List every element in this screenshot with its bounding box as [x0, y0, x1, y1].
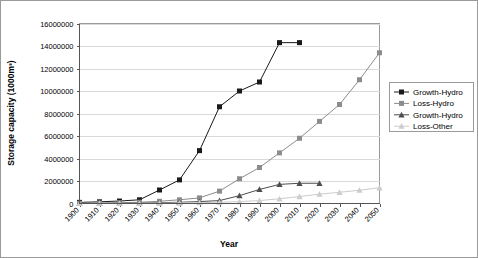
x-axis-title: Year — [220, 239, 239, 249]
data-point-marker — [317, 119, 322, 124]
x-tick-label: 2020 — [303, 206, 321, 224]
line-chart: 0200000040000006000000800000010000000120… — [1, 1, 478, 258]
x-tick-label: 1970 — [203, 206, 221, 224]
data-point-marker — [399, 101, 404, 106]
data-point-marker — [277, 40, 282, 45]
y-axis-ticks: 0200000040000006000000800000010000000120… — [40, 20, 79, 209]
data-point-marker — [217, 189, 222, 194]
data-point-marker — [297, 40, 302, 45]
y-tick-label: 12000000 — [40, 65, 73, 74]
x-tick-label: 1980 — [223, 206, 241, 224]
data-point-marker — [357, 77, 362, 82]
x-tick-label: 1990 — [243, 206, 261, 224]
plot-area: 0200000040000006000000800000010000000120… — [40, 20, 382, 223]
x-tick-label: 1900 — [63, 206, 81, 224]
data-point-marker — [377, 50, 382, 55]
x-tick-label: 2040 — [343, 206, 361, 224]
legend-label: Growth-Hydro — [413, 88, 463, 97]
x-tick-label: 1920 — [103, 206, 121, 224]
y-tick-label: 4000000 — [44, 155, 73, 164]
x-tick-label: 1930 — [123, 206, 141, 224]
y-tick-label: 8000000 — [44, 110, 73, 119]
x-tick-label: 2030 — [323, 206, 341, 224]
data-point-marker — [197, 148, 202, 153]
data-point-marker — [277, 150, 282, 155]
chart-legend: Growth-HydroLoss-HydroGrowth-HydroLoss-O… — [390, 83, 474, 132]
x-tick-label: 1960 — [183, 206, 201, 224]
data-point-marker — [177, 177, 182, 182]
y-tick-label: 14000000 — [40, 42, 73, 51]
x-tick-label: 2000 — [263, 206, 281, 224]
x-axis-ticks: 1900191019201930194019501960197019801990… — [63, 204, 381, 224]
y-axis-title: Storage capacity (1000m³) — [6, 60, 16, 166]
data-point-marker — [297, 136, 302, 141]
data-point-marker — [399, 90, 404, 95]
plot-frame — [80, 24, 380, 204]
x-tick-label: 1950 — [163, 206, 181, 224]
data-point-marker — [217, 104, 222, 109]
x-tick-label: 2050 — [363, 206, 381, 224]
data-point-marker — [257, 165, 262, 170]
legend-label: Growth-Hydro — [413, 111, 463, 120]
x-tick-label: 1940 — [143, 206, 161, 224]
data-point-marker — [237, 176, 242, 181]
legend-label: Loss-Hydro — [413, 99, 454, 108]
x-tick-label: 2010 — [283, 206, 301, 224]
y-tick-label: 16000000 — [40, 20, 73, 29]
chart-container: 0200000040000006000000800000010000000120… — [0, 0, 478, 258]
legend-label: Loss-Other — [413, 122, 453, 131]
y-tick-label: 10000000 — [40, 87, 73, 96]
data-point-marker — [337, 102, 342, 107]
x-tick-label: 1910 — [83, 206, 101, 224]
y-tick-label: 2000000 — [44, 177, 73, 186]
data-point-marker — [157, 188, 162, 193]
y-tick-label: 6000000 — [44, 132, 73, 141]
data-point-marker — [257, 80, 262, 85]
data-point-marker — [237, 89, 242, 94]
